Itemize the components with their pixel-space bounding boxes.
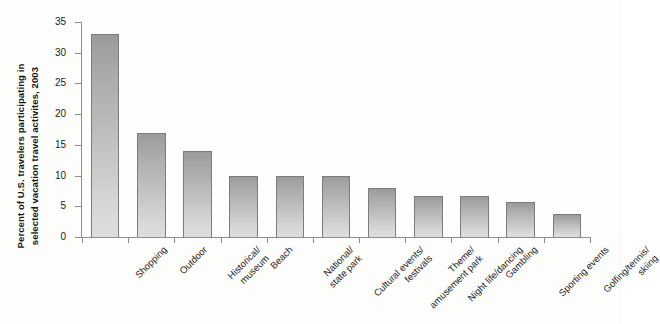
y-axis-title-line-2: selected vacation travel activites, 2003 — [28, 67, 42, 245]
bar — [553, 214, 582, 237]
x-axis-tick — [405, 237, 406, 243]
y-axis-title-line-1: Percent of U.S. travelers participating … — [14, 64, 28, 249]
x-axis-label: Sporting events — [556, 244, 611, 299]
bar — [460, 196, 489, 237]
x-axis-tick — [313, 237, 314, 243]
x-axis-tick — [498, 237, 499, 243]
bar — [506, 202, 535, 237]
plot-area: 05101520253035 ShoppingOutdoorHistorical… — [82, 22, 590, 237]
x-axis-tick — [359, 237, 360, 243]
y-axis-tick-label: 15 — [55, 138, 66, 151]
x-axis-tick — [128, 237, 129, 243]
bar — [183, 151, 212, 237]
x-axis-tick — [544, 237, 545, 243]
x-axis-tick — [267, 237, 268, 243]
x-axis-tick — [82, 237, 83, 243]
bar — [229, 176, 258, 237]
x-axis-label-line: Sporting events — [556, 244, 611, 299]
y-axis-line — [81, 22, 82, 237]
y-axis-tick-label: 10 — [55, 169, 66, 182]
x-axis-label: Historical/museum — [226, 244, 272, 290]
x-axis-label-line: Outdoor — [177, 244, 209, 276]
x-axis-label-line: Beach — [268, 244, 295, 271]
y-axis-tick-label: 0 — [60, 230, 66, 243]
x-axis-tick — [174, 237, 175, 243]
y-axis-title: Percent of U.S. travelers participating … — [0, 31, 56, 281]
x-axis-tick — [451, 237, 452, 243]
x-axis-label: Shopping — [133, 244, 170, 281]
bar — [368, 188, 397, 237]
y-axis-tick: 5 — [75, 206, 81, 207]
x-axis-label: Outdoor — [177, 244, 209, 276]
bar — [91, 34, 120, 237]
y-axis-tick: 10 — [75, 176, 81, 177]
y-axis-tick-label: 35 — [55, 15, 66, 28]
y-axis-tick-label: 20 — [55, 107, 66, 120]
bar — [322, 176, 351, 237]
y-axis-tick-label: 5 — [60, 199, 66, 212]
y-axis-tick: 25 — [75, 83, 81, 84]
y-axis-tick-label: 30 — [55, 46, 66, 59]
y-axis-tick: 0 — [75, 237, 81, 238]
x-axis-label: National/state park — [318, 244, 364, 290]
bar — [414, 196, 443, 237]
y-axis-tick: 15 — [75, 145, 81, 146]
y-axis-tick: 30 — [75, 53, 81, 54]
x-axis-line — [81, 237, 591, 238]
x-axis-tick — [590, 237, 591, 243]
x-axis-tick — [221, 237, 222, 243]
x-axis-label-line: Shopping — [133, 244, 170, 281]
x-axis-label: Beach — [268, 244, 295, 271]
y-axis-tick: 35 — [75, 22, 81, 23]
y-axis-tick-label: 25 — [55, 76, 66, 89]
bar — [137, 133, 166, 237]
bar — [276, 176, 305, 237]
y-axis-tick: 20 — [75, 114, 81, 115]
